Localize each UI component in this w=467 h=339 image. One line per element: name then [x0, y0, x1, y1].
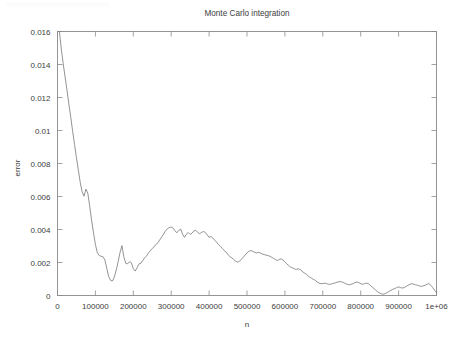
y-tick-label: 0 — [46, 292, 51, 301]
chart-figure: Monte Carlo integration error n 00.0020.… — [0, 0, 467, 339]
x-tick-label: 0 — [55, 302, 60, 311]
image-artifact-band — [6, 2, 110, 7]
y-tick-label: 0.01 — [35, 127, 51, 136]
y-tick-label: 0.014 — [30, 61, 51, 70]
data-series-error-line — [59, 32, 436, 295]
y-tick-label: 0.004 — [30, 226, 51, 235]
x-tick-label: 900000 — [385, 302, 412, 311]
y-tick-label: 0.012 — [30, 94, 51, 103]
x-tick-label: 1e+06 — [425, 302, 448, 311]
x-tick-label: 300000 — [158, 302, 185, 311]
x-tick-label: 700000 — [309, 302, 336, 311]
x-tick-label: 200000 — [120, 302, 147, 311]
y-axis-label: error — [13, 159, 22, 176]
chart-title: Monte Carlo integration — [204, 9, 290, 18]
plot-frame — [58, 32, 437, 296]
x-tick-label: 500000 — [234, 302, 261, 311]
x-tick-label: 600000 — [272, 302, 299, 311]
y-tick-label: 0.002 — [30, 259, 51, 268]
y-tick-label: 0.008 — [30, 160, 51, 169]
x-axis-label: n — [245, 320, 249, 329]
x-tick-label: 400000 — [196, 302, 223, 311]
y-tick-label: 0.016 — [30, 28, 51, 37]
y-tick-label: 0.006 — [30, 193, 51, 202]
monte-carlo-error-plot: Monte Carlo integration error n 00.0020.… — [0, 0, 467, 339]
x-tick-label: 800000 — [347, 302, 374, 311]
x-axis-ticks: 0100000200000300000400000500000600000700… — [55, 32, 448, 311]
x-tick-label: 100000 — [82, 302, 109, 311]
